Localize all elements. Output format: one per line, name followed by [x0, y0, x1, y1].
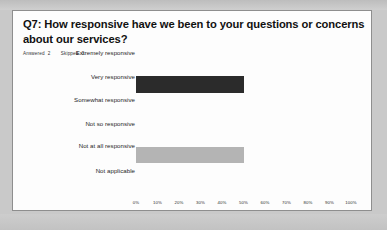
x-axis-tick: 90%: [325, 200, 334, 205]
x-axis-tick: 40%: [218, 200, 227, 205]
bar-track: [136, 100, 351, 117]
category-label: Somewhat responsive: [27, 96, 135, 104]
bar-track: [136, 53, 351, 70]
x-axis-tick: 80%: [304, 200, 313, 205]
page-title: Q7: How responsive have we been to your …: [23, 17, 367, 46]
bar-track: [136, 123, 351, 140]
bar: [136, 147, 244, 164]
x-axis-tick: 20%: [175, 200, 184, 205]
category-label: Not applicable: [27, 167, 135, 175]
category-label: Extremely responsive: [27, 49, 135, 57]
x-axis-tick: 100%: [345, 200, 356, 205]
x-axis-tick: 10%: [153, 200, 162, 205]
category-label: Very responsive: [27, 73, 135, 81]
x-axis-tick: 50%: [239, 200, 248, 205]
survey-question-card: Q7: How responsive have we been to your …: [12, 10, 372, 211]
bar: [136, 76, 244, 93]
chart-rows: Extremely responsiveVery responsiveSomew…: [13, 49, 372, 190]
category-label: Not so responsive: [27, 120, 135, 128]
chart-row: Extremely responsive: [13, 49, 372, 73]
chart-row: Not applicable: [13, 167, 372, 191]
chart-row: Not at all responsive: [13, 143, 372, 167]
page-background-bottom: [0, 214, 387, 230]
chart-row: Very responsive: [13, 73, 372, 97]
x-axis: 0%10%20%30%40%50%60%70%80%90%100%: [136, 200, 351, 210]
x-axis-tick: 30%: [196, 200, 205, 205]
bar-chart: Extremely responsiveVery responsiveSomew…: [13, 49, 372, 211]
x-axis-tick: 60%: [261, 200, 270, 205]
page-background-top: [0, 0, 387, 10]
bar-track: [136, 76, 351, 93]
x-axis-tick: 70%: [282, 200, 291, 205]
chart-row: Somewhat responsive: [13, 96, 372, 120]
category-label: Not at all responsive: [27, 142, 135, 150]
bar-track: [136, 170, 351, 187]
x-axis-tick: 0%: [133, 200, 139, 205]
chart-row: Not so responsive: [13, 120, 372, 144]
bar-track: [136, 147, 351, 164]
